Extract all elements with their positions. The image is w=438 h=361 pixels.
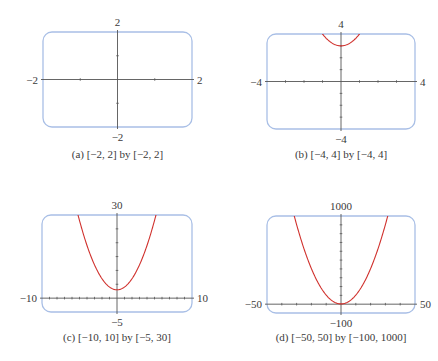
ymax-label: 30 <box>112 199 124 211</box>
xmin-label: −2 <box>26 74 38 86</box>
xmax-label: 2 <box>197 74 203 86</box>
xmin-label: −50 <box>245 298 263 310</box>
ymax-label: 4 <box>338 18 344 30</box>
panel-caption: (c) [−10, 10] by [−5, 30] <box>63 331 171 344</box>
panel-caption: (b) [−4, 4] by [−4, 4] <box>295 148 387 161</box>
xmin-label: −4 <box>250 76 262 88</box>
ymax-label: 1000 <box>330 200 353 212</box>
ymin-label: −2 <box>112 131 124 143</box>
ymax-label: 2 <box>115 16 121 28</box>
ymin-label: −4 <box>335 133 347 145</box>
ymin-label: −5 <box>111 316 123 328</box>
plot-panel-b: 4−4−44(b) [−4, 4] by [−4, 4] <box>250 0 426 161</box>
xmax-label: 10 <box>197 292 209 304</box>
ymin-label: −100 <box>330 317 353 329</box>
xmax-label: 4 <box>420 76 426 88</box>
viewing-window-figure: 2−2−22(a) [−2, 2] by [−2, 2]4−4−44(b) [−… <box>0 0 438 361</box>
panel-caption: (d) [−50, 50] by [−100, 1000] <box>276 331 407 344</box>
panel-caption: (a) [−2, 2] by [−2, 2] <box>72 148 164 161</box>
plot-panel-a: 2−2−22(a) [−2, 2] by [−2, 2] <box>26 16 202 161</box>
xmin-label: −10 <box>20 292 38 304</box>
xmax-label: 50 <box>420 298 432 310</box>
